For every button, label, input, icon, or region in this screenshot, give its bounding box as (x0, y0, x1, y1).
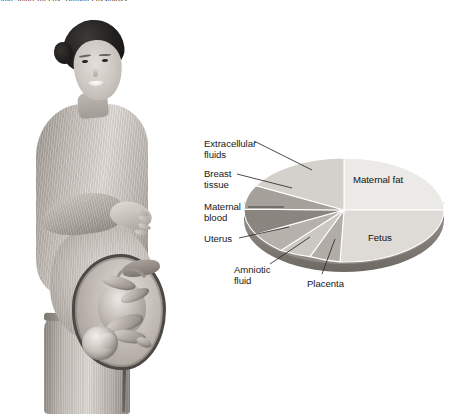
photo-nose (93, 68, 98, 77)
leader-line-extracellular-fluids (254, 141, 312, 170)
header-caption: and Stuart Ira Fox, Human Physiology (1, 0, 128, 1)
pregnancy-weight-gain-pie-chart: Extracellular fluids Breast tissue Mater… (192, 128, 458, 310)
pie-label-maternal-fat: Maternal fat (353, 174, 403, 185)
pie-label-amniotic-fluid: Amniotic fluid (234, 264, 270, 287)
pie-slice-fetus[interactable] (340, 210, 444, 262)
pie-label-extracellular-fluids: Extracellular fluids (204, 138, 256, 161)
pie-label-placenta: Placenta (307, 278, 344, 289)
pregnant-woman-photograph (14, 18, 164, 396)
uterus-cutaway-illustration (72, 254, 166, 370)
pie-label-uterus: Uterus (204, 233, 232, 244)
pie-label-maternal-blood: Maternal blood (204, 201, 241, 224)
pie-label-breast-tissue: Breast tissue (204, 168, 231, 191)
pie-slices (244, 158, 444, 262)
pie-label-fetus: Fetus (368, 232, 392, 243)
figure-root: and Stuart Ira Fox, Human Physiology (0, 0, 458, 418)
fetus-face (100, 333, 116, 349)
